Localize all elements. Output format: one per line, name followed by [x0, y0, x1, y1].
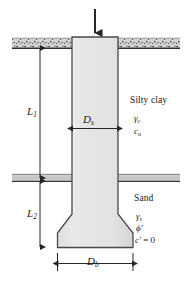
dimension-label-L1: L1 [27, 106, 37, 119]
dimension-label-Db: Db [87, 256, 99, 269]
drilled-shaft-body [58, 37, 134, 248]
property-gamma-s: γs [136, 212, 142, 222]
soil-label-silty-clay: Silty clay [130, 96, 167, 106]
figure-drawing-canvas [0, 0, 193, 282]
property-cu: cu [134, 127, 141, 137]
property-gamma-c: γc [134, 114, 140, 124]
property-c-prime: c′ = 0 [135, 236, 155, 245]
dimension-label-Ds: Ds [83, 114, 94, 127]
soil-label-sand: Sand [134, 194, 153, 204]
property-phi-prime: ϕ′ [136, 224, 143, 233]
drilled-shaft-figure: Silty clay γc cu Sand γs ϕ′ c′ = 0 L1 L2… [0, 0, 193, 282]
dimension-label-L2: L2 [27, 208, 37, 221]
